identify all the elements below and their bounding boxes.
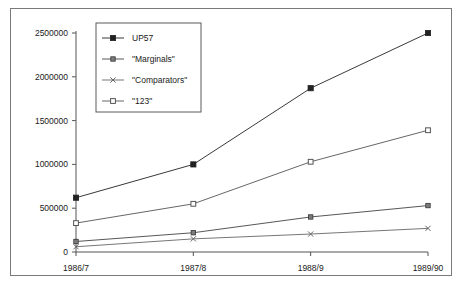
y-tick-label: 1500000 bbox=[35, 116, 68, 126]
x-tick-label: 1987/8 bbox=[180, 263, 206, 273]
data-point-marker bbox=[426, 128, 431, 133]
y-axis: 05000001000000150000020000002500000 bbox=[35, 28, 76, 257]
chart-plot-area: 05000001000000150000020000002500000 1986… bbox=[11, 9, 453, 277]
data-point-marker bbox=[74, 221, 79, 226]
x-tick-label: 1989/90 bbox=[413, 263, 444, 273]
chart-frame: 05000001000000150000020000002500000 1986… bbox=[10, 8, 452, 276]
data-point-marker bbox=[74, 239, 78, 243]
y-tick-label: 2000000 bbox=[35, 72, 68, 82]
legend-label: "123" bbox=[132, 96, 152, 106]
y-tick-label: 500000 bbox=[40, 203, 69, 213]
data-point-marker bbox=[111, 57, 115, 61]
series-marginals bbox=[74, 203, 430, 243]
data-point-marker bbox=[191, 201, 196, 206]
data-point-marker bbox=[308, 86, 313, 91]
legend-label: "Marginals" bbox=[132, 54, 175, 64]
data-point-marker bbox=[191, 231, 195, 235]
data-point-marker bbox=[308, 215, 312, 219]
legend-label: UP57 bbox=[132, 33, 154, 43]
y-tick-label: 0 bbox=[63, 247, 68, 257]
data-point-marker bbox=[111, 99, 116, 104]
series-line bbox=[76, 130, 428, 223]
data-point-marker bbox=[191, 162, 196, 167]
data-point-marker bbox=[308, 159, 313, 164]
data-point-marker bbox=[110, 35, 115, 40]
data-point-marker bbox=[73, 195, 78, 200]
y-tick-label: 2500000 bbox=[35, 28, 68, 38]
x-tick-label: 1988/9 bbox=[298, 263, 324, 273]
x-tick-label: 1986/7 bbox=[63, 263, 89, 273]
y-tick-label: 1000000 bbox=[35, 159, 68, 169]
line-chart-svg: 05000001000000150000020000002500000 1986… bbox=[11, 9, 453, 277]
legend-label: "Comparators" bbox=[132, 75, 187, 85]
data-point-marker bbox=[426, 203, 430, 207]
x-axis: 1986/71987/81988/91989/90 bbox=[63, 252, 444, 273]
data-point-marker bbox=[425, 30, 430, 35]
chart-legend: UP57"Marginals""Comparators""123" bbox=[96, 23, 201, 112]
